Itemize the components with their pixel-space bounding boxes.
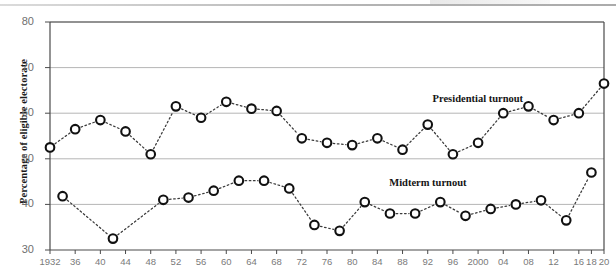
series-connector [446,205,460,213]
data-point-marker [109,234,118,243]
series-connector [497,206,510,208]
data-point-marker [512,200,521,209]
data-point-marker [474,139,483,148]
data-point-marker [272,107,281,116]
data-point-marker [499,109,508,118]
data-point-marker [360,198,369,207]
data-point-marker [96,116,105,125]
data-point-marker [587,168,596,177]
series-connector [471,211,484,215]
series-connector [383,141,397,147]
series-connector [560,115,573,119]
data-point-marker [310,221,319,230]
plot-area [0,0,616,278]
data-point-marker [172,102,181,111]
series-connector [546,204,561,216]
data-point-marker [71,125,80,134]
series-connector [344,207,361,226]
data-point-marker [222,98,231,107]
data-point-marker [600,79,609,88]
midterm-series-label: Midterm turnout [389,177,466,188]
series-connector [583,88,600,108]
data-point-marker [285,184,294,193]
data-point-marker [549,116,558,125]
data-point-marker [373,134,382,143]
data-point-marker [159,196,168,205]
series-connector [509,108,522,112]
series-connector [81,122,95,127]
series-connector [232,103,245,107]
data-point-marker [575,109,584,118]
data-point-marker [323,139,332,148]
data-point-marker [411,209,420,218]
series-connector [281,115,298,133]
series-connector [432,129,449,149]
data-point-marker [209,186,218,195]
series-connector [407,129,423,145]
series-connector [55,133,70,144]
series-connector [421,205,435,211]
data-point-marker [335,227,344,236]
series-connector [67,200,108,234]
series-connector [270,183,283,187]
series-connector [482,118,499,138]
series-connector [358,140,371,144]
series-connector [169,198,182,199]
series-connector [320,226,333,229]
turnout-line-chart: Percentage of eligible electorate 304050… [0,0,616,278]
series-connector [308,139,321,141]
data-point-marker [247,104,256,113]
data-point-marker [121,127,130,136]
data-point-marker [197,113,206,122]
series-connector [182,109,196,115]
data-point-marker [46,143,55,152]
series-connector [258,109,271,110]
series-connector [194,192,207,196]
series-connector [219,183,233,188]
data-point-marker [58,192,67,201]
presidential-series-label: Presidential turnout [433,93,524,104]
series-connector [333,143,346,144]
series-connector [154,112,173,149]
data-point-marker [235,176,244,185]
data-point-marker [524,102,533,111]
data-point-marker [348,141,357,150]
data-point-marker [449,150,458,159]
data-point-marker [436,198,445,207]
data-point-marker [537,196,546,205]
series-connector [130,136,146,150]
series-connector [569,178,588,215]
data-point-marker [260,176,269,185]
data-point-marker [461,212,470,221]
data-point-marker [386,209,395,218]
series-connector [106,123,120,129]
data-point-marker [398,145,407,154]
data-point-marker [184,193,193,202]
data-point-marker [486,205,495,214]
data-point-marker [423,120,432,129]
series-connector [522,201,535,203]
series-connector [293,194,311,220]
series-connector [370,205,384,211]
series-connector [118,204,159,235]
series-connector [459,145,473,151]
data-point-marker [146,150,155,159]
data-point-marker [562,216,571,225]
data-point-marker [298,134,307,143]
